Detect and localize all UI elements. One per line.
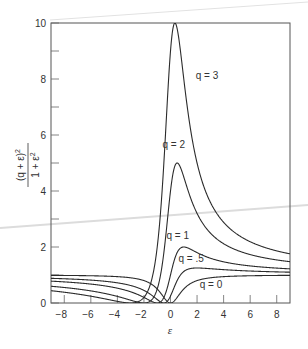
curve-label-q-0: q = 0 — [200, 279, 223, 290]
y-axis-title: (q + ε)2 1 + ε2 — [14, 143, 41, 187]
curves — [51, 23, 290, 303]
x-tick-label: −8 — [56, 309, 68, 320]
curve-q-3 — [51, 23, 290, 303]
y-tick-label: 8 — [40, 74, 46, 85]
x-tick-label: 2 — [194, 309, 200, 320]
y-axis-title-denominator: 1 + ε2 — [29, 152, 41, 177]
y-tick-label: 2 — [40, 242, 46, 253]
x-axis-title: ε — [168, 324, 173, 336]
x-tick-label: 6 — [247, 309, 253, 320]
x-tick-label: −6 — [82, 309, 94, 320]
x-tick-label: 8 — [274, 309, 280, 320]
fano-profile-chart: 0246810 −8−6−4−202468 q = 0q = .5q = 1q … — [0, 0, 308, 349]
y-tick-label: 4 — [40, 186, 46, 197]
y-tick-label: 10 — [35, 18, 47, 29]
plot-frame — [51, 23, 290, 303]
artifact-line-mid — [0, 205, 308, 228]
x-tick-label: −2 — [135, 309, 147, 320]
artifact-line-top — [50, 2, 308, 20]
x-axis: −8−6−4−202468 — [56, 295, 280, 320]
x-tick-label: 4 — [221, 309, 227, 320]
curve-label-q-1: q = 1 — [167, 230, 190, 241]
y-tick-label: 6 — [40, 130, 46, 141]
curve-label-q-3: q = 3 — [196, 70, 219, 81]
y-axis-title-numerator: (q + ε)2 — [14, 149, 26, 181]
curve-label-q-2: q = 2 — [163, 139, 186, 150]
curve-label-q-0_5: q = .5 — [178, 253, 204, 264]
x-tick-label: −4 — [109, 309, 121, 320]
y-tick-label: 0 — [40, 298, 46, 309]
x-tick-label: 0 — [168, 309, 174, 320]
